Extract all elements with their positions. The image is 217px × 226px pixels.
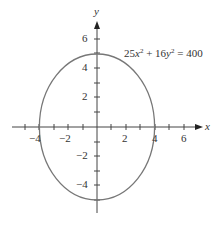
x-tick-label: 6 — [181, 133, 187, 144]
y-axis-label: y — [94, 6, 99, 17]
y-tick-label: 6 — [82, 33, 88, 44]
y-tick-label: −4 — [76, 179, 88, 190]
y-axis-arrow-icon — [94, 21, 100, 29]
equation-annotation: 25x2 + 16y2 = 400 — [124, 48, 203, 59]
x-tick-label: −4 — [29, 133, 41, 144]
x-axis-label: x — [205, 121, 210, 132]
x-tick-label: 2 — [122, 133, 128, 144]
x-tick-label: 4 — [152, 133, 158, 144]
x-tick-label: −2 — [59, 133, 71, 144]
y-tick-label: 4 — [82, 62, 88, 73]
y-tick-label: −2 — [76, 150, 88, 161]
y-tick-label: 2 — [82, 91, 88, 102]
x-axis-arrow-icon — [195, 124, 203, 130]
ellipse-plot — [0, 0, 217, 226]
